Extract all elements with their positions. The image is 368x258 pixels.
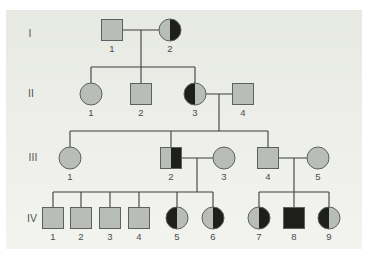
individual-number-III-2: 2 [168,171,173,182]
pedigree-chart: 12123412345123456789 IIIIIIIV [0,0,368,258]
individual-number-IV-4: 4 [136,231,141,242]
square-symbol [71,208,92,229]
individual-number-IV-3: 3 [107,231,112,242]
square-symbol [100,208,121,229]
individual-number-II-2: 2 [138,107,143,118]
square-symbol [43,208,64,229]
individual-number-IV-2: 2 [78,231,83,242]
individual-number-III-4: 4 [265,171,270,182]
individual-number-IV-8: 8 [291,231,296,242]
square-symbol [233,84,254,105]
individual-number-II-3: 3 [192,107,197,118]
square-symbol [284,208,305,229]
generation-label-IV: IV [27,212,37,224]
square-symbol [102,20,123,41]
generation-label-I: I [29,27,32,39]
individual-number-IV-9: 9 [326,231,331,242]
generation-label-II: II [28,87,34,99]
right-half-shading [171,148,182,169]
individual-number-IV-5: 5 [174,231,179,242]
individual-number-III-1: 1 [67,171,72,182]
individual-number-IV-6: 6 [210,231,215,242]
individual-number-I-1: 1 [109,43,114,54]
individual-number-I-2: 2 [167,43,172,54]
individual-number-II-1: 1 [88,107,93,118]
individual-number-III-5: 5 [315,171,320,182]
individual-number-II-4: 4 [240,107,245,118]
square-symbol [129,208,150,229]
individual-number-IV-1: 1 [50,231,55,242]
individual-number-IV-7: 7 [256,231,261,242]
square-symbol [131,84,152,105]
individual-number-III-3: 3 [221,171,226,182]
pedigree-svg: 12123412345123456789 IIIIIIIV [0,0,368,258]
square-symbol [258,148,279,169]
generation-label-III: III [29,151,38,163]
